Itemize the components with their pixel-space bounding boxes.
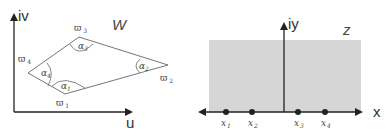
point-x4 [322, 109, 328, 115]
angle-label-alpha3: α3 [78, 41, 88, 52]
x-axis-label: x [373, 103, 381, 120]
point-label-x4: x4 [321, 118, 331, 129]
point-x1 [223, 109, 229, 115]
point-label-x2: x2 [248, 118, 258, 129]
vertex-label-w4: ϖ4 [18, 54, 31, 65]
point-label-x1: x1 [221, 118, 231, 129]
u-axis-label: u [126, 114, 134, 131]
angle-label-alpha4: α4 [41, 68, 51, 79]
iv-axis-label: iv [18, 7, 29, 24]
iy-axis-label: iy [288, 15, 299, 32]
vertex-label-w3: ϖ3 [74, 23, 87, 34]
angle-label-alpha2: α2 [139, 61, 149, 72]
conformal-map-diagram: iv u W ϖ1 ϖ2 ϖ3 ϖ4 α1 α2 α3 α4 iy x z x1… [0, 0, 390, 137]
point-x3 [295, 109, 301, 115]
point-x2 [249, 109, 255, 115]
vertex-label-w1: ϖ1 [56, 98, 69, 109]
w-plane-label: W [112, 16, 128, 33]
upper-half-plane-region [209, 40, 361, 112]
z-plane-label: z [342, 21, 351, 38]
angle-label-alpha1: α1 [61, 81, 71, 92]
point-label-x3: x3 [294, 118, 304, 129]
w-plane: iv u W ϖ1 ϖ2 ϖ3 ϖ4 α1 α2 α3 α4 [14, 7, 173, 131]
z-plane: iy x z x1 x2 x3 x4 [204, 15, 381, 129]
vertex-label-w2: ϖ2 [160, 73, 173, 84]
